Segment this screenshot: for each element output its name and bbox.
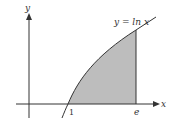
tick-label-e: e — [134, 107, 139, 117]
x-axis-arrow-icon — [153, 101, 160, 107]
diagram-canvas: y x y = ln x 1 e — [0, 0, 171, 128]
shaded-area — [68, 30, 136, 104]
y-axis-label: y — [24, 3, 31, 13]
tick-label-1: 1 — [69, 108, 74, 117]
y-axis-arrow-icon — [26, 13, 32, 20]
x-axis-label: x — [161, 99, 166, 109]
ln-area-diagram: y x y = ln x 1 e — [0, 0, 171, 128]
curve-label: y = ln x — [113, 17, 149, 27]
